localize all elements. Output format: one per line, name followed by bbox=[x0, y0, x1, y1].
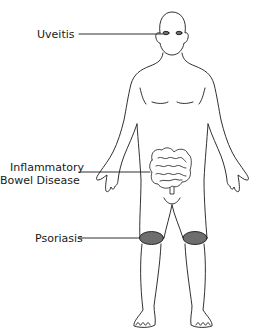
pectoral-left bbox=[140, 88, 146, 104]
left-toes bbox=[136, 323, 150, 325]
chest-line-right bbox=[177, 102, 193, 104]
torso-right-outline bbox=[204, 124, 208, 238]
groin-line bbox=[164, 198, 180, 204]
inner-left-thigh bbox=[164, 205, 172, 238]
torso-left-outline bbox=[137, 124, 141, 238]
intestines-icon bbox=[150, 148, 192, 194]
body-figure bbox=[0, 0, 258, 336]
pectoral-right bbox=[199, 88, 205, 104]
right-arm-outline bbox=[182, 53, 248, 192]
left-arm-outline bbox=[97, 53, 163, 192]
right-eye bbox=[176, 31, 182, 34]
left-lower-leg bbox=[134, 244, 161, 327]
inner-right-thigh bbox=[172, 205, 183, 238]
left-eye bbox=[163, 31, 169, 34]
head-outline bbox=[156, 12, 189, 55]
right-lower-leg bbox=[185, 244, 212, 327]
right-toes bbox=[196, 323, 210, 325]
chest-line-left bbox=[152, 102, 168, 104]
right-knee-lesion bbox=[183, 232, 207, 245]
left-knee-lesion bbox=[140, 232, 164, 245]
